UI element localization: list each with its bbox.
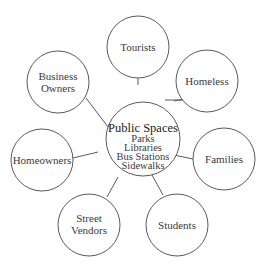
node-label-line1: Street — [76, 212, 102, 224]
edge-business-owners — [86, 98, 108, 127]
node-homeowners: Homeowners — [11, 129, 73, 191]
node-street-vendors: Street Vendors — [58, 194, 120, 256]
node-business-owners: Business Owners — [27, 51, 89, 113]
edge-homeowners — [73, 152, 98, 158]
node-students: Students — [146, 194, 208, 256]
node-label-line2: Vendors — [71, 224, 107, 236]
node-tourists: Tourists — [107, 16, 169, 78]
node-label: Homeowners — [13, 154, 72, 166]
edge-street-vendors — [107, 177, 118, 197]
node-label: Families — [205, 153, 243, 165]
node-homeless: Homeless — [176, 50, 238, 112]
node-label: Tourists — [120, 41, 155, 53]
center-node-public-spaces: Public Spaces Parks Libraries Bus Statio… — [106, 102, 180, 176]
node-label: Students — [158, 219, 196, 231]
node-label-line2: Owners — [41, 82, 75, 94]
node-label-line1: Business — [38, 70, 77, 82]
node-label: Homeless — [185, 75, 228, 87]
center-item: Sidewalks — [121, 160, 164, 171]
bubble-map-diagram: Tourists Homeless Families Students Stre… — [0, 0, 264, 265]
edge-students — [152, 175, 163, 195]
node-families: Families — [193, 128, 255, 190]
